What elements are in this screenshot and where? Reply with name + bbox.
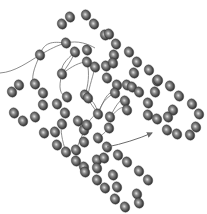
bead	[29, 110, 42, 123]
bead	[171, 127, 184, 140]
bead	[101, 71, 114, 84]
bead	[81, 43, 94, 56]
bead	[123, 45, 136, 58]
bead	[92, 107, 105, 120]
bead	[80, 8, 93, 21]
bead	[149, 85, 162, 98]
beads-layer	[6, 8, 206, 213]
bead	[56, 67, 69, 80]
direction-arrow-icon	[107, 133, 152, 147]
bead	[161, 123, 174, 136]
bead	[34, 48, 47, 61]
bead	[109, 192, 122, 205]
bead	[107, 168, 120, 181]
bead	[104, 110, 117, 123]
bead	[88, 17, 101, 30]
bead	[38, 126, 51, 139]
thread-line	[0, 43, 66, 73]
bead	[29, 77, 42, 90]
bead	[128, 66, 141, 79]
bead	[142, 173, 155, 186]
bead	[164, 79, 177, 92]
bead	[37, 98, 50, 111]
bead	[111, 180, 124, 193]
bead	[60, 36, 73, 49]
bead	[119, 200, 132, 213]
bead	[142, 96, 155, 109]
bead	[152, 73, 165, 86]
bead	[110, 37, 123, 50]
bead	[92, 131, 105, 144]
bead	[51, 97, 64, 110]
bead	[59, 106, 72, 119]
bead	[91, 161, 104, 174]
bead-chain-diagram	[0, 0, 207, 214]
bead	[69, 45, 82, 58]
bead	[173, 89, 186, 102]
bead	[8, 106, 21, 119]
bead	[61, 90, 74, 103]
bead	[37, 86, 50, 99]
bead	[186, 97, 199, 110]
bead	[133, 164, 146, 177]
bead	[17, 114, 30, 127]
bead	[131, 55, 144, 68]
bead	[193, 107, 206, 120]
bead	[143, 63, 156, 76]
